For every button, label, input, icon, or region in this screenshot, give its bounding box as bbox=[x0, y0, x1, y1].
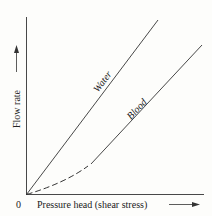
flow-chart: Water Blood Flow rate 0 Pressure head (s… bbox=[0, 0, 212, 216]
x-axis-arrow-head-icon bbox=[192, 202, 200, 207]
y-axis-arrow-head-icon bbox=[14, 45, 19, 53]
blood-dashed-segment bbox=[27, 166, 89, 195]
origin-label: 0 bbox=[16, 199, 21, 210]
blood-label: Blood bbox=[124, 96, 149, 122]
water-label: Water bbox=[91, 69, 114, 94]
x-axis-label: Pressure head (shear stress) bbox=[37, 199, 147, 211]
y-axis-label: Flow rate bbox=[11, 89, 22, 128]
